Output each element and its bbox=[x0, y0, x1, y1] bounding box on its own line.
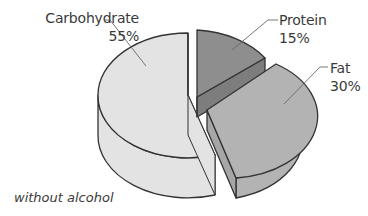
protein-label: Protein 15% bbox=[279, 11, 327, 47]
footnote: without alcohol bbox=[14, 190, 114, 205]
carbohydrate-label-pct: 55% bbox=[45, 27, 139, 45]
protein-label-pct: 15% bbox=[279, 29, 327, 47]
fat-label: Fat 30% bbox=[330, 59, 361, 95]
fat-label-name: Fat bbox=[330, 59, 361, 77]
carbohydrate-label: Carbohydrate 55% bbox=[45, 9, 139, 45]
fat-label-pct: 30% bbox=[330, 77, 361, 95]
carbohydrate-label-name: Carbohydrate bbox=[45, 9, 139, 27]
protein-label-name: Protein bbox=[279, 11, 327, 29]
